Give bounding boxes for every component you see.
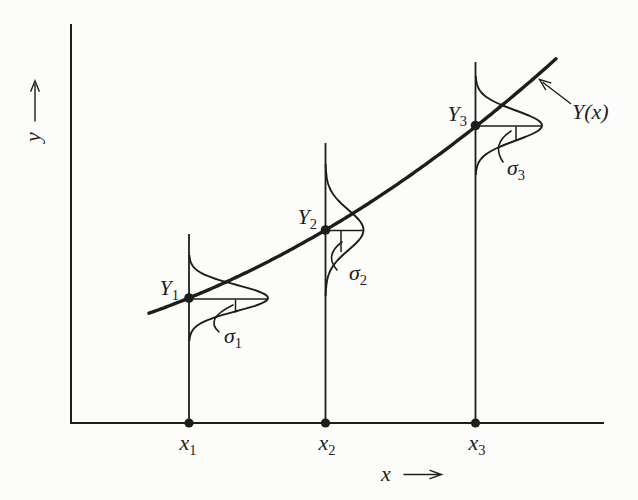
x-axis-label-text: x (380, 461, 391, 486)
mean-dot-1 (184, 293, 194, 303)
y-axis-label-text: y (20, 132, 45, 144)
figure-background (0, 0, 638, 500)
figure-canvas: y x Y1 Y2 Y3 σ1 σ2 (0, 0, 638, 500)
mean-dot-3 (471, 121, 481, 131)
x-axis-dot-2 (321, 418, 330, 427)
x-axis-dot-3 (471, 418, 480, 427)
mean-dot-2 (321, 225, 331, 235)
curve-label: Y(x) (572, 99, 609, 124)
x-axis-dot-1 (184, 418, 193, 427)
